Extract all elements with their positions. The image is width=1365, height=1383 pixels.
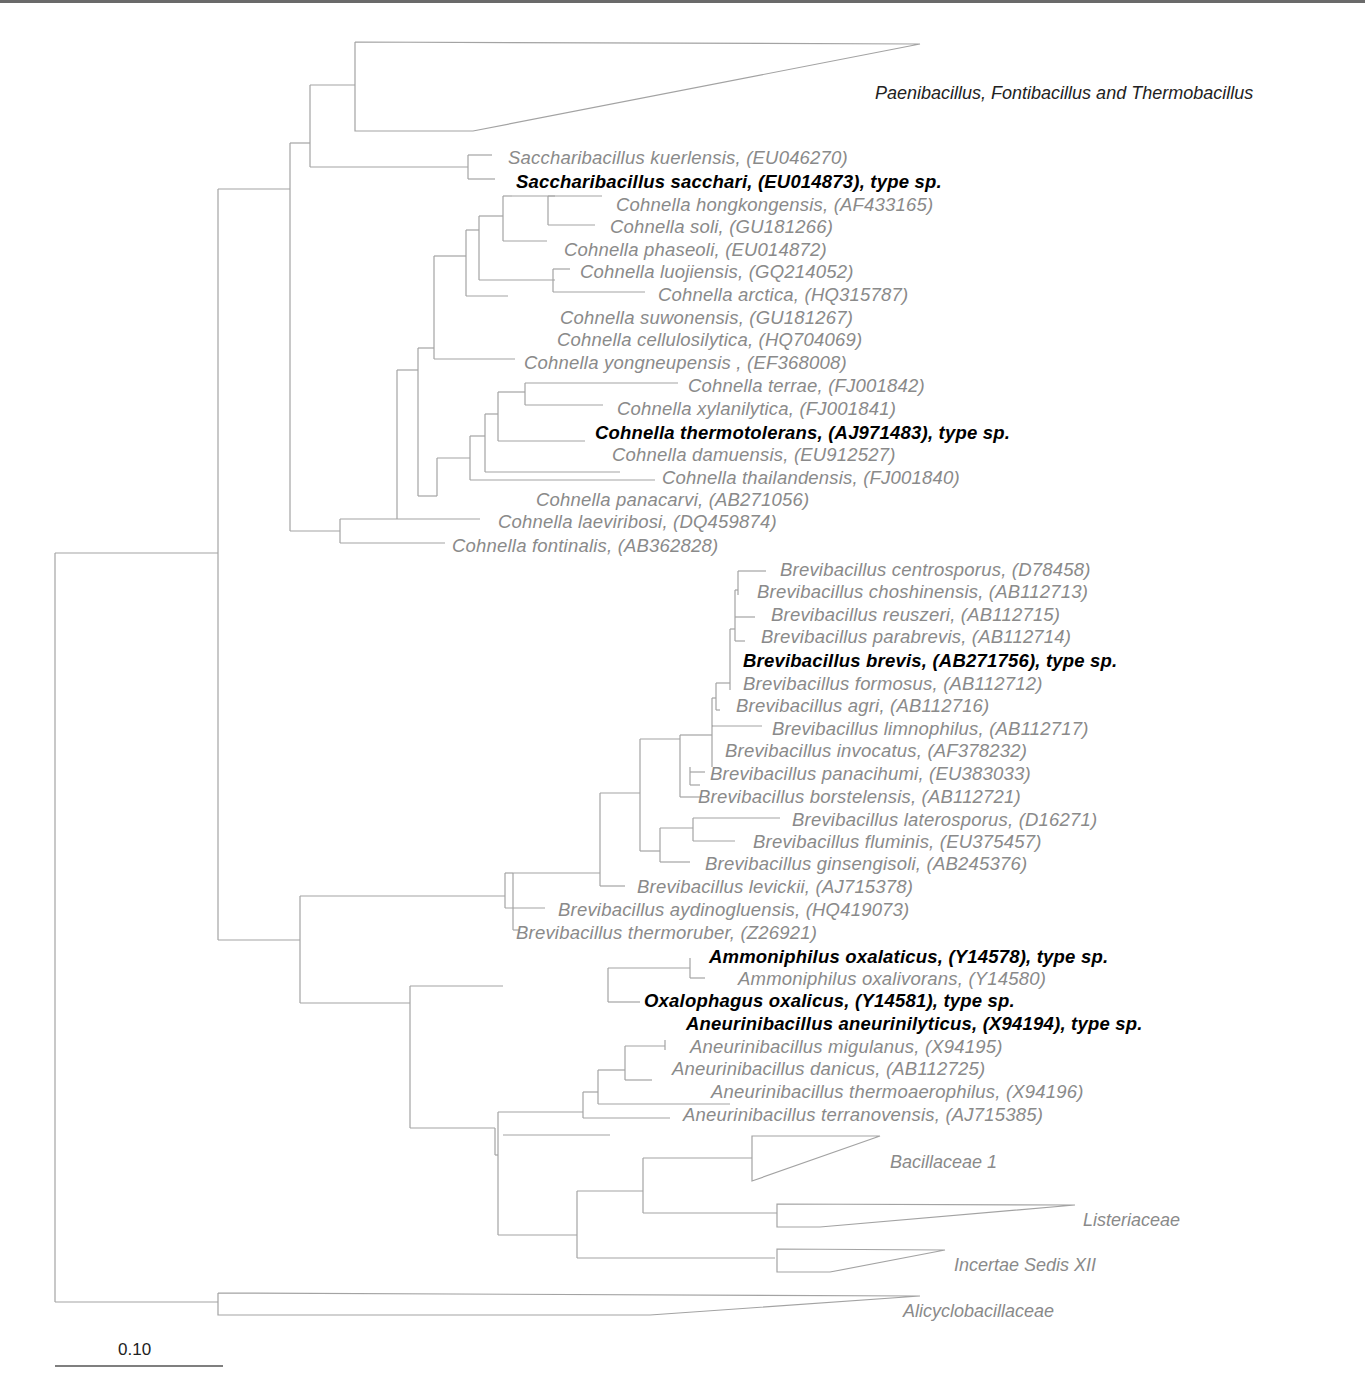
taxon-label: Cohnella laeviribosi, (DQ459874) [498,512,777,532]
taxon-label: Brevibacillus aydinogluensis, (HQ419073) [558,900,909,920]
clade-label-paenibacillus: Paenibacillus, Fontibacillus and Thermob… [875,83,1253,103]
taxon-label: Brevibacillus panacihumi, (EU383033) [710,764,1031,784]
taxon-label-type-species: Brevibacillus brevis, (AB271756), type s… [743,651,1117,671]
taxon-label: Aneurinibacillus danicus, (AB112725) [672,1059,985,1079]
taxon-label: Brevibacillus fluminis, (EU375457) [753,832,1042,852]
taxon-label: Cohnella cellulosilytica, (HQ704069) [557,330,862,350]
taxon-label: Cohnella fontinalis, (AB362828) [452,536,718,556]
taxon-label: Aneurinibacillus terranovensis, (AJ71538… [683,1105,1043,1125]
taxon-label: Cohnella luojiensis, (GQ214052) [580,262,854,282]
taxon-label-type-species: Ammoniphilus oxalaticus, (Y14578), type … [709,947,1108,967]
taxon-label: Ammoniphilus oxalivorans, (Y14580) [738,969,1046,989]
clade-label-listeriaceae: Listeriaceae [1083,1210,1180,1230]
taxon-label: Brevibacillus laterosporus, (D16271) [792,810,1097,830]
taxon-label: Cohnella terrae, (FJ001842) [688,376,925,396]
taxon-label: Saccharibacillus kuerlensis, (EU046270) [508,148,848,168]
taxon-label-type-species: Aneurinibacillus aneurinilyticus, (X9419… [686,1014,1143,1034]
taxon-label: Brevibacillus agri, (AB112716) [736,696,989,716]
taxon-label: Brevibacillus levickii, (AJ715378) [637,877,913,897]
clade-label-incertae-sedis: Incertae Sedis XII [954,1255,1096,1275]
taxon-label: Brevibacillus ginsengisoli, (AB245376) [705,854,1027,874]
taxon-label-type-species: Saccharibacillus sacchari, (EU014873), t… [516,172,942,192]
taxon-label: Cohnella damuensis, (EU912527) [612,445,896,465]
taxon-label: Cohnella arctica, (HQ315787) [658,285,908,305]
taxon-label: Cohnella xylanilytica, (FJ001841) [617,399,896,419]
clade-label-bacillaceae: Bacillaceae 1 [890,1152,997,1172]
taxon-label-type-species: Cohnella thermotolerans, (AJ971483), typ… [595,423,1010,443]
taxon-label: Brevibacillus thermoruber, (Z26921) [516,923,817,943]
taxon-label: Cohnella panacarvi, (AB271056) [536,490,809,510]
taxon-label: Aneurinibacillus migulanus, (X94195) [690,1037,1003,1057]
taxon-label: Cohnella phaseoli, (EU014872) [564,240,827,260]
taxon-label: Brevibacillus centrosporus, (D78458) [780,560,1091,580]
taxon-label: Brevibacillus formosus, (AB112712) [743,674,1043,694]
scale-bar-label: 0.10 [118,1340,151,1360]
taxon-label: Aneurinibacillus thermoaerophilus, (X941… [711,1082,1084,1102]
taxon-label-type-species: Oxalophagus oxalicus, (Y14581), type sp. [644,991,1015,1011]
taxon-label: Cohnella thailandensis, (FJ001840) [662,468,960,488]
taxon-label: Brevibacillus choshinensis, (AB112713) [757,582,1088,602]
taxon-label: Brevibacillus borstelensis, (AB112721) [698,787,1021,807]
taxon-label: Cohnella yongneupensis , (EF368008) [524,353,847,373]
taxon-label: Brevibacillus reuszeri, (AB112715) [771,605,1060,625]
taxon-label: Brevibacillus invocatus, (AF378232) [725,741,1027,761]
taxon-label: Brevibacillus limnophilus, (AB112717) [772,719,1089,739]
taxon-label: Cohnella suwonensis, (GU181267) [560,308,853,328]
clade-label-alicyclobacillaceae: Alicyclobacillaceae [903,1301,1054,1321]
taxon-label: Brevibacillus parabrevis, (AB112714) [761,627,1071,647]
taxon-label: Cohnella soli, (GU181266) [610,217,833,237]
taxon-label: Cohnella hongkongensis, (AF433165) [616,195,933,215]
